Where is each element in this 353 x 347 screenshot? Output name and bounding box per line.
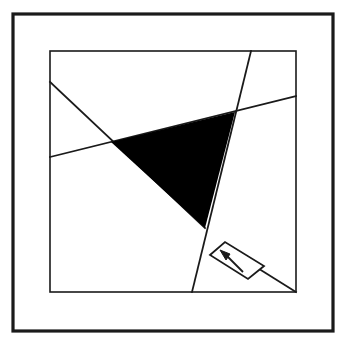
geometry-figure	[0, 0, 353, 347]
figure-container	[0, 0, 353, 347]
